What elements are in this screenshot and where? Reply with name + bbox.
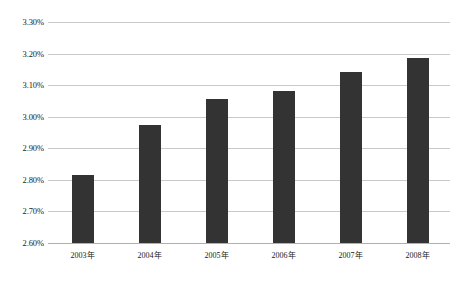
gridline xyxy=(48,85,450,86)
x-axis-tick-label: 2008年 xyxy=(388,249,448,260)
y-axis-tick-label: 2.80% xyxy=(4,175,44,185)
gridline xyxy=(48,211,450,212)
y-axis-tick-label: 3.30% xyxy=(4,17,44,27)
bar xyxy=(407,58,429,243)
gridline xyxy=(48,22,450,23)
y-axis-tick-label: 2.70% xyxy=(4,206,44,216)
gridline xyxy=(48,54,450,55)
y-axis-tick-label: 3.00% xyxy=(4,112,44,122)
x-axis-tick-label: 2006年 xyxy=(254,249,314,260)
x-axis-tick-label: 2007年 xyxy=(321,249,381,260)
bar xyxy=(206,99,228,243)
gridline xyxy=(48,117,450,118)
x-axis-tick-label: 2005年 xyxy=(187,249,247,260)
gridline xyxy=(48,243,450,244)
x-axis-tick-label: 2003年 xyxy=(53,249,113,260)
x-axis-tick-label: 2004年 xyxy=(120,249,180,260)
plot-area xyxy=(48,22,450,243)
gridline xyxy=(48,148,450,149)
bar xyxy=(340,72,362,243)
bar-chart: 3.30%3.20%3.10%3.00%2.90%2.80%2.70%2.60%… xyxy=(0,0,463,282)
bar xyxy=(72,175,94,243)
bar xyxy=(273,91,295,243)
y-axis-tick-label: 3.10% xyxy=(4,80,44,90)
y-axis-tick-label: 2.60% xyxy=(4,238,44,248)
y-axis-tick-label: 2.90% xyxy=(4,143,44,153)
y-axis-tick-label: 3.20% xyxy=(4,49,44,59)
gridline xyxy=(48,180,450,181)
bar xyxy=(139,125,161,243)
